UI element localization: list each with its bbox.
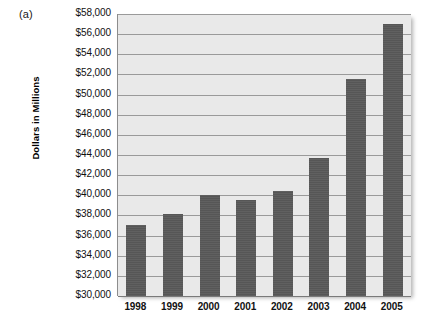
- bar: [309, 158, 329, 296]
- y-tick-label: $32,000: [49, 269, 111, 280]
- bar: [126, 225, 146, 297]
- bar: [383, 24, 403, 296]
- y-tick-label: $44,000: [49, 148, 111, 159]
- y-tick-label: $40,000: [49, 188, 111, 199]
- bar: [273, 191, 293, 296]
- panel-label: (a): [19, 8, 33, 20]
- bar: [236, 200, 256, 296]
- y-tick-label: $36,000: [49, 229, 111, 240]
- y-tick-label: $58,000: [49, 7, 111, 18]
- y-tick-label: $46,000: [49, 128, 111, 139]
- gridline: [118, 296, 411, 297]
- y-tick-label: $52,000: [49, 67, 111, 78]
- y-tick-label: $56,000: [49, 27, 111, 38]
- y-tick-label: $54,000: [49, 47, 111, 58]
- bar-chart-figure: (a) Dollars in Millions $58,000$56,000$5…: [0, 0, 435, 322]
- x-tick-label: 2005: [362, 301, 422, 312]
- bar: [346, 79, 366, 296]
- y-tick-label: $30,000: [49, 289, 111, 300]
- x-axis-tick-labels: 19981999200020012002200320042005: [117, 301, 410, 319]
- bar: [200, 195, 220, 296]
- y-axis-title: Dollars in Millions: [30, 58, 41, 178]
- y-tick-label: $48,000: [49, 108, 111, 119]
- y-tick-label: $42,000: [49, 168, 111, 179]
- bar: [163, 214, 183, 296]
- y-axis-tick-labels: $58,000$56,000$54,000$52,000$50,000$48,0…: [49, 0, 111, 322]
- y-tick-label: $38,000: [49, 208, 111, 219]
- plot-area: [117, 14, 411, 296]
- y-tick-label: $50,000: [49, 88, 111, 99]
- bar-series: [118, 14, 411, 296]
- y-tick-label: $34,000: [49, 249, 111, 260]
